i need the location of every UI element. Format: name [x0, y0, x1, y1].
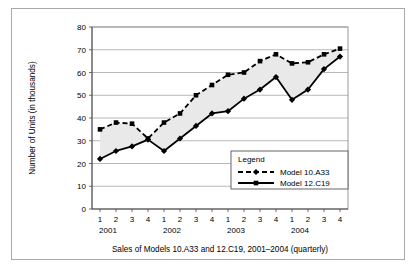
x-tick-label: 2	[178, 215, 183, 224]
y-tick-label: 30	[77, 137, 86, 146]
y-tick-label: 10	[77, 182, 86, 191]
y-tick-label: 40	[77, 114, 86, 123]
y-axis-title: Number of Units (in thousands)	[28, 61, 37, 175]
data-point-marker	[210, 83, 215, 88]
data-point-marker	[226, 72, 231, 77]
chart-legend[interactable]: Legend Model 10.A33Model 12.C19	[231, 151, 348, 189]
data-point-marker	[178, 111, 183, 116]
x-year-label: 2001	[99, 226, 117, 235]
x-tick-label: 4	[146, 215, 151, 224]
x-tick-label: 3	[194, 215, 199, 224]
data-point-marker	[194, 93, 199, 98]
data-point-marker	[290, 61, 295, 66]
x-tick-label: 3	[258, 215, 263, 224]
y-tick-label: 0	[82, 205, 87, 214]
data-point-marker	[162, 120, 167, 125]
data-point-marker	[114, 120, 119, 125]
y-axis-ticks: 01020304050607080	[77, 23, 92, 214]
x-tick-label: 1	[98, 215, 103, 224]
legend-marker	[254, 181, 259, 186]
x-tick-label: 2	[242, 215, 247, 224]
x-tick-label: 1	[290, 215, 295, 224]
data-point-marker	[98, 127, 103, 132]
x-tick-label: 4	[274, 215, 279, 224]
data-point-marker	[338, 46, 343, 51]
x-year-label: 2004	[291, 226, 309, 235]
data-point-marker	[274, 52, 279, 57]
x-tick-label: 4	[338, 215, 343, 224]
x-axis-ticks: 1234123412341234	[98, 209, 343, 224]
sales-line-chart: 01020304050607080 1234123412341234 20012…	[12, 9, 404, 259]
x-tick-label: 3	[322, 215, 327, 224]
x-tick-label: 1	[226, 215, 231, 224]
y-tick-label: 60	[77, 69, 86, 78]
x-tick-label: 4	[210, 215, 215, 224]
figure-container: 01020304050607080 1234123412341234 20012…	[0, 0, 417, 270]
y-tick-label: 70	[77, 46, 86, 55]
figure-frame: 01020304050607080 1234123412341234 20012…	[11, 8, 405, 260]
x-tick-label: 2	[114, 215, 119, 224]
data-point-marker	[130, 121, 135, 126]
data-point-marker	[242, 70, 247, 75]
y-tick-label: 20	[77, 160, 86, 169]
data-point-marker	[322, 52, 327, 57]
x-year-label: 2003	[227, 226, 245, 235]
legend-label: Model 10.A33	[280, 168, 330, 177]
data-point-marker	[258, 59, 263, 64]
data-point-marker	[306, 60, 311, 65]
y-tick-label: 80	[77, 23, 86, 32]
x-tick-label: 2	[306, 215, 311, 224]
x-axis-caption: Sales of Models 10.A33 and 12.C19, 2001–…	[112, 245, 328, 254]
legend-title: Legend	[238, 155, 265, 164]
legend-label: Model 12.C19	[280, 179, 330, 188]
y-tick-label: 50	[77, 91, 86, 100]
x-tick-label: 1	[162, 215, 167, 224]
x-axis-year-labels: 2001200220032004	[99, 226, 309, 235]
x-tick-label: 3	[130, 215, 135, 224]
x-year-label: 2002	[163, 226, 181, 235]
